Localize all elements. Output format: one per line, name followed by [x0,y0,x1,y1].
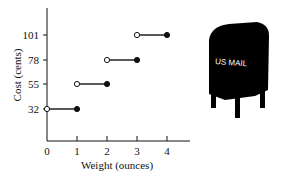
closed-endpoint [74,106,79,111]
y-tick-label: 55 [28,78,40,90]
y-axis-title: Cost (cents) [11,48,24,101]
x-tick-label: 1 [74,145,80,157]
open-endpoint [74,81,79,86]
open-endpoint [44,106,49,111]
x-tick-label: 0 [44,145,50,157]
x-tick-label: 4 [164,145,170,157]
axes [47,8,190,141]
x-tick-label: 2 [104,145,110,157]
mailbox-icon: US MAIL [205,22,273,122]
step-segment [44,106,79,111]
y-tick-label: 32 [28,103,39,115]
closed-endpoint [104,81,109,86]
y-tick-label: 101 [23,29,40,41]
x-tick-label: 3 [134,145,140,157]
open-endpoint [134,32,139,37]
open-endpoint [104,57,109,62]
step-segment [134,32,169,37]
y-tick-label: 78 [28,54,40,66]
step-chart: 01234 325578101 Weight (ounces) Cost (ce… [0,0,195,182]
y-ticks: 325578101 [23,29,48,115]
closed-endpoint [164,32,169,37]
step-segment [74,81,109,86]
step-segment [104,57,139,62]
x-axis-title: Weight (ounces) [81,159,153,172]
closed-endpoint [134,57,139,62]
x-ticks: 01234 [44,136,170,157]
series [44,32,169,111]
